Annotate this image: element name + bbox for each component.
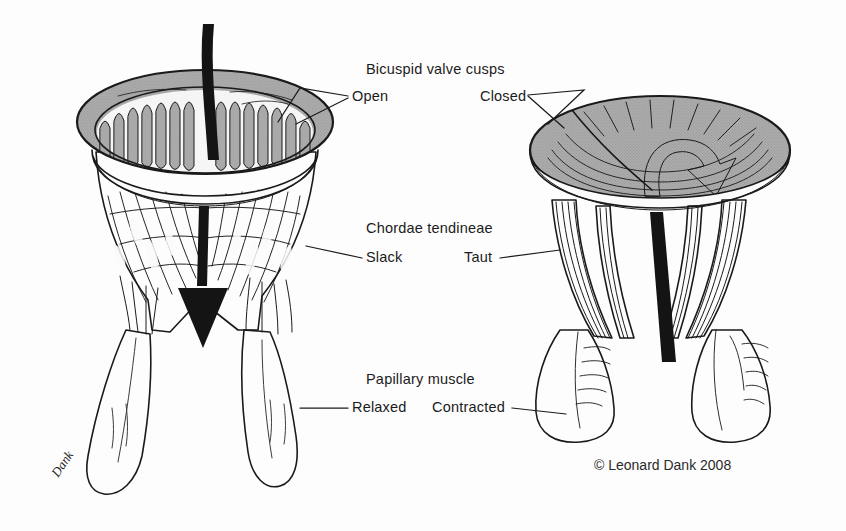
valve-diagram: Dank [0,0,846,531]
label-cusps-open: Open [352,88,388,104]
label-papillary-contracted: Contracted [432,399,505,415]
figure-root: Dank [0,0,846,531]
label-cusps-closed: Closed [480,88,526,104]
copyright-credit: © Leonard Dank 2008 [594,457,731,473]
label-cusps-heading: Bicuspid valve cusps [366,61,505,77]
label-papillary-heading: Papillary muscle [366,371,475,387]
left-flow-shaft-lower [197,206,209,286]
label-papillary-relaxed: Relaxed [352,399,407,415]
label-chordae-heading: Chordae tendineae [366,220,493,236]
label-chordae-slack: Slack [366,249,403,265]
label-chordae-taut: Taut [464,249,492,265]
